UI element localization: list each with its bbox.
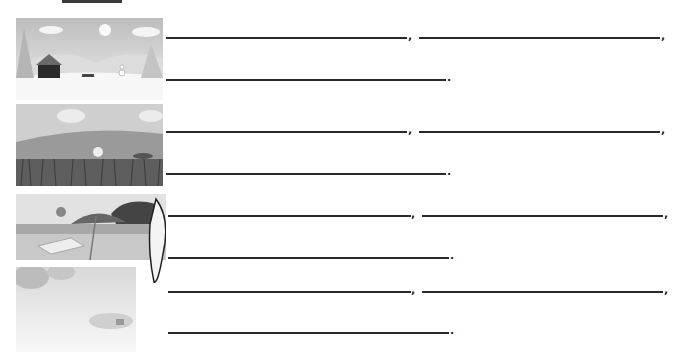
spring-meadow-icon: [16, 104, 163, 186]
comma: ,: [664, 208, 668, 219]
answer-line-2a[interactable]: [166, 131, 407, 133]
answer-line-3a[interactable]: [168, 215, 411, 217]
header-underline: [62, 0, 122, 3]
period: .: [450, 250, 454, 261]
period: .: [450, 325, 454, 336]
answer-line-1c[interactable]: [166, 79, 446, 81]
answer-line-1b[interactable]: [419, 37, 660, 39]
comma: ,: [408, 124, 412, 135]
answer-line-4c[interactable]: [168, 332, 449, 334]
comma: ,: [661, 124, 665, 135]
period: .: [447, 72, 451, 83]
comma: ,: [411, 208, 415, 219]
answer-line-4a[interactable]: [168, 291, 411, 293]
comma: ,: [664, 284, 668, 295]
answer-line-4b[interactable]: [422, 291, 663, 293]
comma: ,: [411, 284, 415, 295]
answer-line-2c[interactable]: [166, 173, 446, 175]
answer-line-2b[interactable]: [419, 131, 660, 133]
period: .: [447, 166, 451, 177]
answer-line-3c[interactable]: [168, 257, 449, 259]
answer-line-3b[interactable]: [422, 215, 663, 217]
comma: ,: [661, 30, 665, 41]
winter-scene-icon: [16, 18, 163, 100]
answer-line-1a[interactable]: [166, 37, 407, 39]
autumn-village-icon: [16, 267, 136, 352]
comma: ,: [408, 30, 412, 41]
